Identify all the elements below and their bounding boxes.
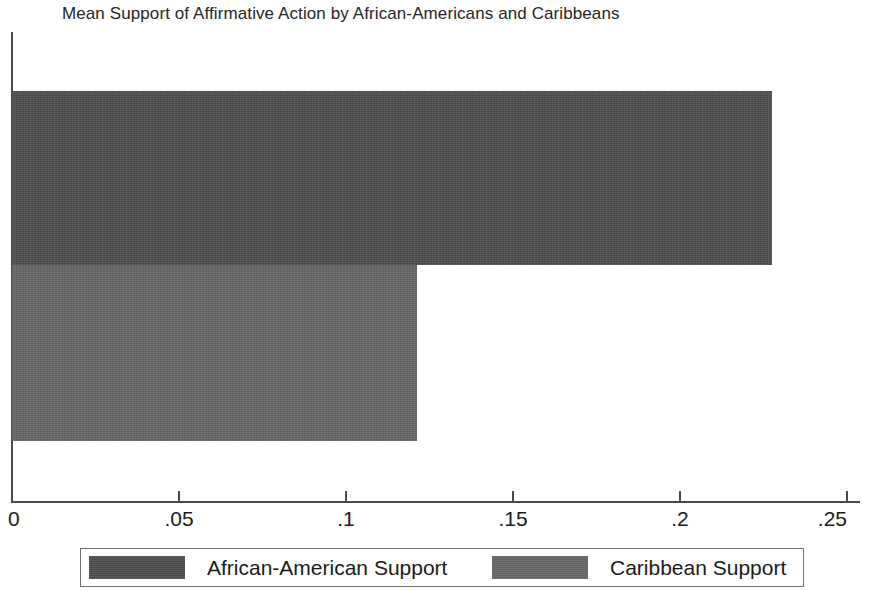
x-axis-tick-label: .25 — [818, 506, 847, 531]
x-axis-tick-label: .2 — [671, 506, 689, 531]
legend-entry-caribbean-support: Caribbean Support — [492, 549, 786, 586]
plot-area: 0.05.1.15.2.25 — [0, 0, 877, 590]
legend-label-caribbean-support: Caribbean Support — [610, 555, 786, 580]
x-axis-tick-mark — [679, 491, 681, 502]
bar-chart: Mean Support of Affirmative Action by Af… — [0, 0, 877, 590]
legend-entry-african-american-support: African-American Support — [89, 549, 447, 586]
legend-swatch-african-american-support — [89, 556, 185, 579]
legend-swatch-caribbean-support — [492, 556, 588, 579]
bar-african-american-support — [12, 91, 772, 265]
x-axis-tick-label: 0 — [8, 506, 20, 531]
x-axis-tick-label: .05 — [164, 506, 193, 531]
x-axis-tick-label: .15 — [498, 506, 527, 531]
x-axis-tick-mark — [11, 491, 13, 502]
bar-caribbean-support — [12, 265, 417, 441]
x-axis-tick-mark — [512, 491, 514, 502]
x-axis-tick-mark — [345, 491, 347, 502]
x-axis-line — [11, 501, 860, 503]
legend-label-african-american-support: African-American Support — [207, 555, 447, 580]
x-axis-tick-mark — [846, 491, 848, 502]
x-axis-tick-label: .1 — [337, 506, 355, 531]
legend: African-American Support Caribbean Suppo… — [80, 548, 804, 587]
x-axis-tick-mark — [178, 491, 180, 502]
